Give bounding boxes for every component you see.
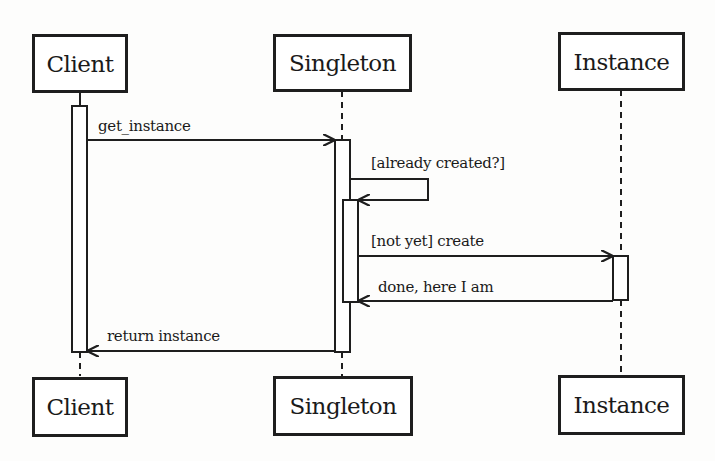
participant-instance-top: Instance — [558, 32, 685, 91]
activation-client — [72, 106, 87, 352]
activation-singleton-nested — [343, 200, 358, 302]
message-label-already-created: [already created?] — [371, 154, 505, 172]
arrow-self-call — [350, 179, 428, 200]
message-label-done: done, here I am — [378, 278, 493, 296]
message-label-return-instance: return instance — [107, 327, 220, 345]
message-label-get-instance: get_instance — [98, 117, 190, 135]
participant-client-bottom: Client — [32, 377, 128, 437]
participant-singleton-top: Singleton — [273, 34, 412, 92]
activation-instance — [613, 256, 628, 300]
participant-instance-bottom: Instance — [558, 375, 685, 435]
participant-client-top: Client — [32, 34, 128, 93]
participant-singleton-bottom: Singleton — [273, 376, 413, 436]
message-label-create: [not yet] create — [371, 232, 484, 250]
